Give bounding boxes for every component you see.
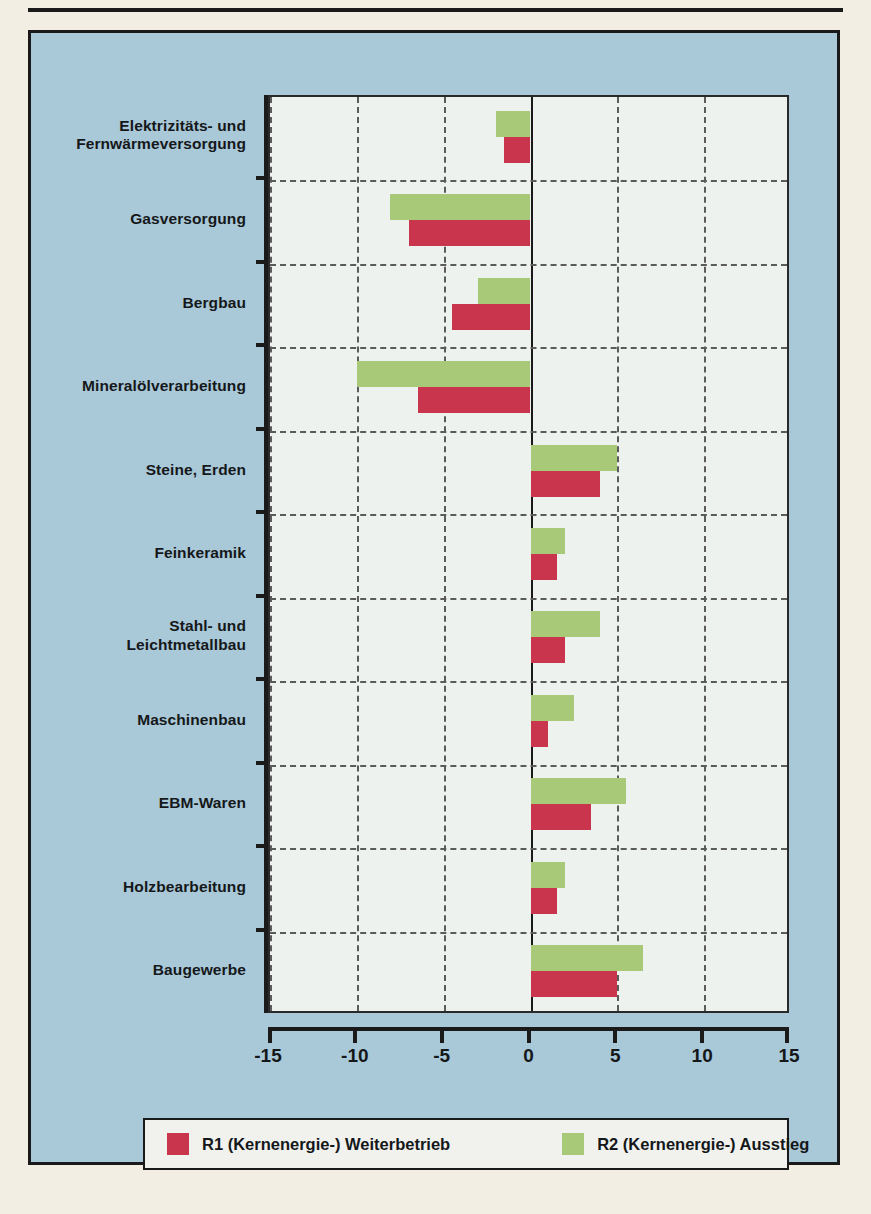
category-label-line: Gasversorgung <box>46 210 246 228</box>
bar-r2 <box>531 528 566 554</box>
category-gridline <box>270 598 787 600</box>
category-gridline <box>270 264 787 266</box>
bar-r2 <box>390 194 531 220</box>
bar-r1 <box>531 721 548 747</box>
category-label: EBM-Waren <box>46 794 246 812</box>
bar-r2 <box>531 611 600 637</box>
plot-area <box>268 95 789 1013</box>
category-label: Baugewerbe <box>46 961 246 979</box>
category-label-line: Steine, Erden <box>46 461 246 479</box>
category-axis-tick <box>256 594 268 598</box>
x-axis-tick <box>613 1027 617 1043</box>
x-axis-tick-label: 10 <box>692 1045 713 1067</box>
x-axis-tick <box>785 1027 789 1043</box>
top-rule-divider <box>28 8 843 12</box>
x-axis-tick-label: -5 <box>433 1045 450 1067</box>
category-axis-tick <box>256 176 268 180</box>
category-label-line: Fernwärmeversorgung <box>46 135 246 153</box>
plot-area-wrapper <box>268 95 789 1013</box>
x-axis-tick <box>440 1027 444 1043</box>
legend-swatch-r2-icon <box>562 1133 584 1155</box>
bar-r2 <box>531 778 627 804</box>
x-axis-tick-label: 5 <box>610 1045 621 1067</box>
category-label-line: Maschinenbau <box>46 711 246 729</box>
bar-r2 <box>496 111 531 137</box>
x-axis-tick <box>700 1027 704 1043</box>
category-axis-tick <box>256 677 268 681</box>
bar-r2 <box>531 945 644 971</box>
category-gridline <box>270 431 787 433</box>
chart-panel: Elektrizitäts- undFernwärmeversorgungGas… <box>28 30 840 1165</box>
category-label-line: Holzbearbeitung <box>46 878 246 896</box>
bar-r2 <box>478 278 530 304</box>
bar-r1 <box>531 471 600 497</box>
bar-r1 <box>531 971 618 997</box>
category-label: Gasversorgung <box>46 210 246 228</box>
category-label-line: Stahl- und <box>46 617 246 635</box>
bar-r2 <box>531 695 574 721</box>
x-axis-tick <box>353 1027 357 1043</box>
bar-r1 <box>531 637 566 663</box>
x-gridline <box>270 97 272 1011</box>
x-gridline <box>357 97 359 1011</box>
category-label: Feinkeramik <box>46 544 246 562</box>
category-axis-tick <box>256 343 268 347</box>
bar-r1 <box>531 804 592 830</box>
bar-r1 <box>531 888 557 914</box>
bar-r1 <box>418 387 531 413</box>
bar-r2 <box>357 361 531 387</box>
category-label: Bergbau <box>46 294 246 312</box>
category-gridline <box>270 765 787 767</box>
x-axis-tick-label: -10 <box>341 1045 368 1067</box>
x-axis-tick <box>527 1027 531 1043</box>
bar-r1 <box>504 137 530 163</box>
category-axis-tick <box>256 844 268 848</box>
x-axis-tick-label: -15 <box>254 1045 281 1067</box>
bar-r1 <box>409 220 531 246</box>
bar-r2 <box>531 445 618 471</box>
category-label-line: Elektrizitäts- und <box>46 117 246 135</box>
x-gridline <box>704 97 706 1011</box>
chart-legend: R1 (Kernenergie-) Weiterbetrieb R2 (Kern… <box>143 1118 789 1170</box>
category-axis-tick <box>256 427 268 431</box>
x-axis <box>268 1027 789 1043</box>
x-axis-tick <box>268 1027 272 1043</box>
category-axis-tick <box>256 510 268 514</box>
category-label-line: Bergbau <box>46 294 246 312</box>
category-gridline <box>270 347 787 349</box>
category-label-line: Mineralölverarbeitung <box>46 377 246 395</box>
category-label: Mineralölverarbeitung <box>46 377 246 395</box>
category-gridline <box>270 180 787 182</box>
legend-swatch-r1-icon <box>167 1133 189 1155</box>
category-label-line: Feinkeramik <box>46 544 246 562</box>
category-label: Stahl- undLeichtmetallbau <box>46 617 246 654</box>
category-axis <box>256 95 268 1013</box>
category-label: Steine, Erden <box>46 461 246 479</box>
category-label-line: EBM-Waren <box>46 794 246 812</box>
category-gridline <box>270 514 787 516</box>
x-axis-tick-labels: -15-10-5051015 <box>268 1045 789 1069</box>
bar-r1 <box>452 304 530 330</box>
category-axis-tick <box>256 260 268 264</box>
legend-item-r2: R2 (Kernenergie-) Ausstieg <box>562 1133 809 1155</box>
category-label-line: Leichtmetallbau <box>46 636 246 654</box>
bar-r2 <box>531 862 566 888</box>
category-gridline <box>270 848 787 850</box>
category-label-line: Baugewerbe <box>46 961 246 979</box>
category-label: Maschinenbau <box>46 711 246 729</box>
legend-label-r1: R1 (Kernenergie-) Weiterbetrieb <box>202 1135 450 1154</box>
legend-label-r2: R2 (Kernenergie-) Ausstieg <box>597 1135 809 1154</box>
category-label: Holzbearbeitung <box>46 878 246 896</box>
category-label: Elektrizitäts- undFernwärmeversorgung <box>46 117 246 154</box>
category-gridline <box>270 932 787 934</box>
category-axis-labels: Elektrizitäts- undFernwärmeversorgungGas… <box>41 95 246 1013</box>
x-axis-tick-label: 0 <box>523 1045 534 1067</box>
x-gridline <box>617 97 619 1011</box>
x-axis-tick-label: 15 <box>778 1045 799 1067</box>
bar-r1 <box>531 554 557 580</box>
chart-page: Elektrizitäts- undFernwärmeversorgungGas… <box>0 0 871 1214</box>
legend-item-r1: R1 (Kernenergie-) Weiterbetrieb <box>167 1133 450 1155</box>
category-axis-tick <box>256 928 268 932</box>
category-axis-tick <box>256 761 268 765</box>
category-gridline <box>270 681 787 683</box>
